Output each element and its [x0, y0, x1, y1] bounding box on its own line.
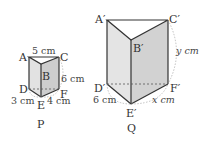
- prism-q-label: Q: [127, 122, 136, 135]
- prism-p-label: P: [37, 118, 45, 131]
- dim-de-prime: 6 cm: [93, 94, 116, 105]
- vertex-e: E: [37, 99, 45, 112]
- dim-ef-prime: x cm: [152, 94, 175, 105]
- vertex-a: A: [18, 51, 28, 64]
- vertex-b: B: [42, 70, 50, 83]
- prism-q: A′ B′ C′ D′ E′ F′ y cm 6 cm x cm Q: [93, 13, 199, 135]
- dim-cf-prime: y cm: [175, 45, 199, 56]
- dim-ac: 5 cm: [32, 45, 55, 56]
- prisms-diagram: A B C D E F 5 cm 6 cm 3 cm 4 cm P A′ B′ …: [0, 0, 205, 141]
- vertex-b-prime: B′: [133, 42, 144, 55]
- dim-cf: 6 cm: [61, 73, 84, 84]
- vertex-e-prime: E′: [126, 107, 137, 120]
- vertex-c-prime: C′: [169, 13, 180, 26]
- vertex-a-prime: A′: [94, 13, 106, 26]
- prism-p: A B C D E F 5 cm 6 cm 3 cm 4 cm P: [11, 45, 84, 131]
- dim-ef: 4 cm: [47, 95, 70, 106]
- dim-de: 3 cm: [11, 95, 34, 106]
- vertex-c: C: [60, 51, 68, 64]
